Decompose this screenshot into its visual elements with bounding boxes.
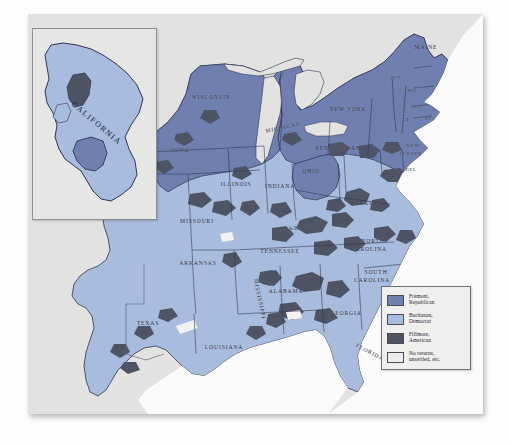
legend-label-fremont: Frémont, Republican xyxy=(409,293,435,305)
legend-swatch-no-returns xyxy=(387,352,404,363)
map-canvas: MAINEVTNHMACTRINEW YORKPENNSYLVANIANEWJE… xyxy=(28,14,483,414)
legend-buchanan-line2: Democrat xyxy=(409,318,433,324)
legend-swatch-fremont xyxy=(387,295,404,306)
california-inset-map: CALIFORNIA xyxy=(33,29,156,219)
legend-swatch-fillmore xyxy=(387,333,404,344)
legend-item-fremont: Frémont, Republican xyxy=(387,293,465,306)
legend-fillmore-line2: American xyxy=(409,337,431,343)
legend-item-buchanan: Buchanan, Democrat xyxy=(387,312,465,325)
map-page: MAINEVTNHMACTRINEW YORKPENNSYLVANIANEWJE… xyxy=(0,0,511,445)
california-inset: CALIFORNIA xyxy=(32,28,157,220)
legend-label-buchanan: Buchanan, Democrat xyxy=(409,312,433,324)
legend-no-returns-line2: unsettled, etc. xyxy=(409,356,440,362)
legend-label-no-returns: No returns, unsettled, etc. xyxy=(409,350,440,362)
legend-item-no-returns: No returns, unsettled, etc. xyxy=(387,350,465,363)
legend-swatch-buchanan xyxy=(387,314,404,325)
legend-item-fillmore: Fillmore, American xyxy=(387,331,465,344)
legend-label-fillmore: Fillmore, American xyxy=(409,331,431,343)
legend-fremont-line2: Republican xyxy=(409,299,435,305)
election-map-plate: MAINEVTNHMACTRINEW YORKPENNSYLVANIANEWJE… xyxy=(28,14,483,414)
lake-erie xyxy=(304,122,348,136)
map-legend: Frémont, Republican Buchanan, Democrat F… xyxy=(381,286,471,370)
